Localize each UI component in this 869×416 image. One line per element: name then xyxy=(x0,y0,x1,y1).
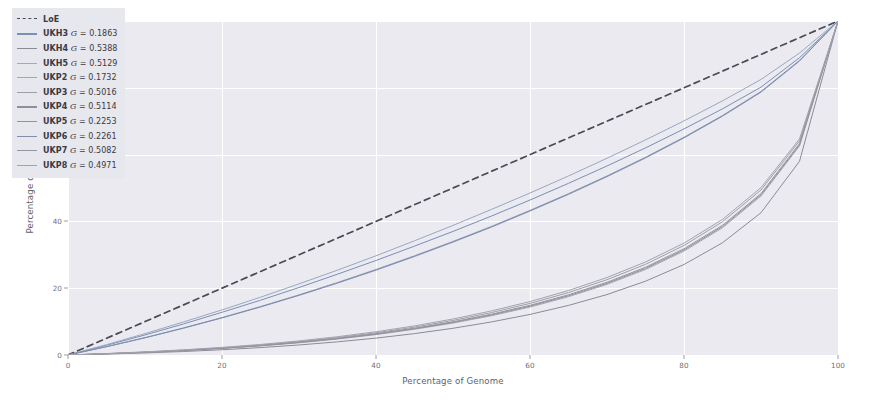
gini-value: = 0.2253 xyxy=(76,117,116,126)
gini-value: = 0.5129 xyxy=(77,59,117,68)
legend-item-label: LoE xyxy=(43,15,59,24)
y-tick-mark xyxy=(64,288,68,289)
legend-item-label: UKP2 G = 0.1732 xyxy=(43,73,117,82)
gini-value: = 0.1732 xyxy=(76,73,116,82)
x-tick-mark xyxy=(838,355,839,359)
legend-line-swatch xyxy=(17,116,37,126)
legend-swatch-line xyxy=(17,18,37,19)
legend-line-swatch xyxy=(17,102,37,112)
gini-value: = 0.5388 xyxy=(77,44,117,53)
legend-item-ukp7[interactable]: UKP7 G = 0.5082 xyxy=(17,143,117,158)
lorenz-curve-figure: 020406080100020406080100 Percentage of G… xyxy=(0,0,869,416)
legend-item-label: UKH5 G = 0.5129 xyxy=(43,59,117,68)
legend-swatch-line xyxy=(17,136,37,137)
gini-value: = 0.5016 xyxy=(76,88,116,97)
legend-item-loe[interactable]: LoE xyxy=(17,12,117,27)
legend-swatch-line xyxy=(17,106,37,107)
gini-value: = 0.5114 xyxy=(76,102,116,111)
x-tick-label: 100 xyxy=(823,361,853,370)
legend-item-ukp3[interactable]: UKP3 G = 0.5016 xyxy=(17,85,117,100)
legend-line-swatch xyxy=(17,43,37,53)
legend-line-swatch xyxy=(17,146,37,156)
x-tick-label: 0 xyxy=(53,361,83,370)
legend-line-swatch xyxy=(17,87,37,97)
gini-value: = 0.1863 xyxy=(77,29,117,38)
y-tick-label: 0 xyxy=(36,351,62,360)
legend-swatch-line xyxy=(17,48,37,49)
x-tick-label: 80 xyxy=(669,361,699,370)
legend-line-swatch xyxy=(17,14,37,24)
legend-item-ukh4[interactable]: UKH4 G = 0.5388 xyxy=(17,41,117,56)
legend-swatch-line xyxy=(17,92,37,93)
x-tick-mark xyxy=(684,355,685,359)
y-tick-label: 40 xyxy=(36,217,62,226)
legend-swatch-line xyxy=(17,63,37,64)
legend-item-label: UKP7 G = 0.5082 xyxy=(43,146,117,155)
legend-item-ukp5[interactable]: UKP5 G = 0.2253 xyxy=(17,114,117,129)
y-tick-mark xyxy=(64,221,68,222)
legend[interactable]: LoEUKH3 G = 0.1863UKH4 G = 0.5388UKH5 G … xyxy=(12,8,125,178)
legend-item-label: UKP5 G = 0.2253 xyxy=(43,117,117,126)
legend-item-ukp6[interactable]: UKP6 G = 0.2261 xyxy=(17,129,117,144)
legend-item-ukp8[interactable]: UKP8 G = 0.4971 xyxy=(17,158,117,173)
x-tick-label: 20 xyxy=(207,361,237,370)
gini-value: = 0.4971 xyxy=(76,161,116,170)
y-tick-label: 20 xyxy=(36,284,62,293)
legend-swatch-line xyxy=(17,121,37,122)
legend-item-ukp2[interactable]: UKP2 G = 0.1732 xyxy=(17,70,117,85)
legend-item-ukp4[interactable]: UKP4 G = 0.5114 xyxy=(17,100,117,115)
x-tick-mark xyxy=(68,355,69,359)
x-axis-label: Percentage of Genome xyxy=(68,376,838,386)
x-tick-mark xyxy=(222,355,223,359)
legend-line-swatch xyxy=(17,160,37,170)
x-tick-mark xyxy=(530,355,531,359)
legend-swatch-line xyxy=(17,165,37,166)
legend-swatch-line xyxy=(17,33,37,34)
gini-value: = 0.5082 xyxy=(76,146,116,155)
gini-value: = 0.2261 xyxy=(76,132,116,141)
legend-line-swatch xyxy=(17,131,37,141)
legend-line-swatch xyxy=(17,58,37,68)
x-tick-label: 60 xyxy=(515,361,545,370)
legend-swatch-line xyxy=(17,77,37,78)
legend-item-ukh3[interactable]: UKH3 G = 0.1863 xyxy=(17,27,117,42)
axis-ticks-layer: 020406080100020406080100 xyxy=(0,0,869,416)
legend-item-ukh5[interactable]: UKH5 G = 0.5129 xyxy=(17,56,117,71)
legend-item-label: UKP6 G = 0.2261 xyxy=(43,132,117,141)
legend-item-label: UKP4 G = 0.5114 xyxy=(43,102,117,111)
x-tick-mark xyxy=(376,355,377,359)
legend-item-label: UKH4 G = 0.5388 xyxy=(43,44,117,53)
legend-line-swatch xyxy=(17,29,37,39)
legend-item-label: UKP3 G = 0.5016 xyxy=(43,88,117,97)
legend-swatch-line xyxy=(17,150,37,151)
legend-line-swatch xyxy=(17,73,37,83)
x-tick-label: 40 xyxy=(361,361,391,370)
legend-item-label: UKP8 G = 0.4971 xyxy=(43,161,117,170)
legend-item-label: UKH3 G = 0.1863 xyxy=(43,29,117,38)
